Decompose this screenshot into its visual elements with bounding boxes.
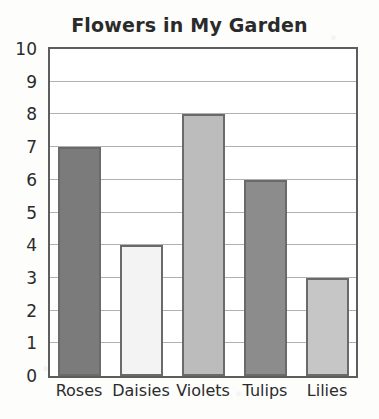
y-tick-label: 5 <box>26 203 37 223</box>
y-tick-label: 3 <box>26 268 37 288</box>
y-tick-label: 4 <box>26 235 37 255</box>
x-axis: RosesDaisiesVioletsTulipsLilies <box>48 381 358 407</box>
y-tick-label: 7 <box>26 137 37 157</box>
y-tick-label: 6 <box>26 170 37 190</box>
x-tick-label-tulips: Tulips <box>234 381 296 400</box>
y-tick-label: 2 <box>26 301 37 321</box>
chart-title: Flowers in My Garden <box>0 14 379 36</box>
y-tick-label: 9 <box>26 72 37 92</box>
bars-group <box>48 47 358 378</box>
y-tick-label: 10 <box>15 39 37 59</box>
y-tick-label: 8 <box>26 104 37 124</box>
x-tick-label-lilies: Lilies <box>296 381 358 400</box>
y-tick-label: 1 <box>26 333 37 353</box>
bar-roses <box>58 147 101 376</box>
bar-lilies <box>306 278 349 376</box>
bar-tulips <box>244 180 287 376</box>
bar-chart: Flowers in My Garden 012345678910 RosesD… <box>0 0 379 419</box>
x-tick-label-violets: Violets <box>172 381 234 400</box>
bar-daisies <box>120 245 163 376</box>
x-tick-label-roses: Roses <box>48 381 110 400</box>
y-axis: 012345678910 <box>0 47 44 378</box>
y-tick-label: 0 <box>26 366 37 386</box>
x-tick-label-daisies: Daisies <box>110 381 172 400</box>
bar-violets <box>182 114 225 376</box>
